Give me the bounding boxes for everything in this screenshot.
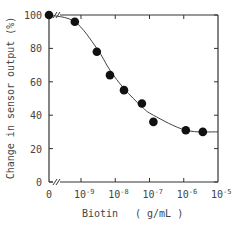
data-point bbox=[93, 47, 102, 56]
x-tick-label: 10-5 bbox=[211, 188, 231, 200]
data-point bbox=[120, 86, 129, 95]
data-point bbox=[149, 118, 158, 127]
y-tick-label: 60 bbox=[30, 77, 42, 88]
x-tick-label: 10-8 bbox=[108, 188, 128, 200]
x-tick-label: 10-7 bbox=[143, 188, 163, 200]
y-axis-title: Change in sensor output (%) bbox=[5, 17, 16, 180]
data-point bbox=[138, 99, 147, 108]
y-tick-label: 80 bbox=[30, 43, 42, 54]
data-points bbox=[45, 11, 207, 137]
data-point bbox=[199, 128, 208, 137]
y-tick-label: 0 bbox=[36, 177, 42, 188]
x-tick-label-zero: 0 bbox=[46, 189, 52, 200]
data-point bbox=[45, 11, 54, 20]
x-axis-unit: ( g/mL ) bbox=[135, 208, 183, 219]
y-tick-label: 20 bbox=[30, 144, 42, 155]
tick-labels: 020406080100010-910-810-710-610-5 bbox=[24, 10, 232, 200]
fitted-curve bbox=[49, 15, 218, 132]
y-tick-label: 100 bbox=[24, 10, 42, 21]
chart-canvas: 020406080100010-910-810-710-610-5 Change… bbox=[0, 0, 236, 227]
x-tick-label: 10-9 bbox=[74, 188, 94, 200]
x-tick-label: 10-6 bbox=[177, 188, 197, 200]
data-point bbox=[182, 126, 191, 135]
x-axis-title: Biotin bbox=[82, 208, 118, 219]
dose-response-chart: 020406080100010-910-810-710-610-5 Change… bbox=[0, 0, 236, 227]
y-tick-label: 40 bbox=[30, 110, 42, 121]
axis-break-marks bbox=[53, 12, 60, 185]
data-point bbox=[71, 17, 80, 26]
data-point bbox=[106, 71, 115, 80]
